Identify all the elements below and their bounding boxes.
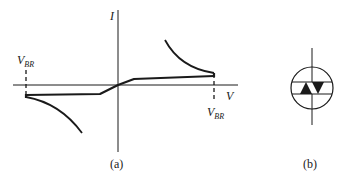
negative-resistance-curve-lower (26, 97, 82, 133)
diac-figure: I V VBR VBR (a) (b) (0, 0, 343, 179)
negative-resistance-curve-upper (165, 40, 214, 73)
i-axis-label: I (109, 9, 115, 23)
vbr-right-label: VBR (207, 105, 224, 121)
iv-characteristic-plot: I V VBR VBR (a) (13, 9, 238, 171)
diac-icon: (b) (291, 48, 333, 171)
caption-b: (b) (303, 157, 317, 171)
v-axis-label: V (226, 89, 235, 103)
triangle-up-icon (300, 82, 312, 94)
vbr-left-label: VBR (17, 53, 34, 69)
triangle-down-icon (312, 82, 324, 94)
caption-a: (a) (110, 157, 123, 171)
